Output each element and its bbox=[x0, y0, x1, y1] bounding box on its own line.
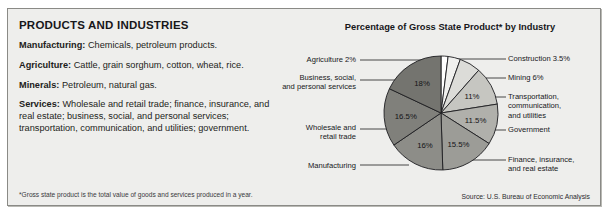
callout-mining: Mining 6% bbox=[508, 73, 543, 82]
left-text-column: PRODUCTS AND INDUSTRIES Manufacturing: C… bbox=[19, 19, 277, 143]
products-and-industries-figure: PRODUCTS AND INDUSTRIES Manufacturing: C… bbox=[7, 8, 601, 206]
pie-value-label: 16% bbox=[417, 141, 433, 150]
entry-text-agriculture: Cattle, grain sorghum, cotton, wheat, ri… bbox=[71, 60, 244, 70]
callout-manufacturing: Manufacturing bbox=[308, 161, 356, 170]
entry-term-manufacturing: Manufacturing: bbox=[19, 40, 85, 50]
entry-services: Services: Wholesale and retail trade; fi… bbox=[19, 99, 277, 134]
entry-minerals: Minerals: Petroleum, natural gas. bbox=[19, 80, 277, 92]
source-credit: Source: U.S. Bureau of Economic Analysis bbox=[462, 193, 590, 200]
entry-term-minerals: Minerals: bbox=[19, 80, 59, 90]
callout-finance: Finance, insurance, and real estate bbox=[508, 155, 574, 174]
footnote: *Gross state product is the total value … bbox=[19, 191, 349, 199]
chart-title: Percentage of Gross State Product* by In… bbox=[300, 22, 600, 32]
entry-manufacturing: Manufacturing: Chemicals, petroleum prod… bbox=[19, 40, 277, 52]
callout-wholesale: Wholesale and retail trade bbox=[306, 123, 356, 142]
callout-agriculture: Agriculture 2% bbox=[307, 55, 356, 64]
callout-transportation: Transportation, communication, and utili… bbox=[508, 92, 561, 120]
pie-value-label: 18% bbox=[414, 79, 430, 88]
callout-government: Government bbox=[508, 125, 550, 134]
page-title: PRODUCTS AND INDUSTRIES bbox=[19, 19, 277, 31]
pie-value-label: 15.5% bbox=[447, 140, 469, 149]
callout-business: Business, social, and personal services bbox=[282, 73, 356, 92]
entry-text-manufacturing: Chemicals, petroleum products. bbox=[85, 40, 217, 50]
callout-construction: Construction 3.5% bbox=[508, 54, 570, 63]
pie-value-label: 11.5% bbox=[465, 116, 487, 125]
entry-text-minerals: Petroleum, natural gas. bbox=[59, 80, 157, 90]
entry-term-agriculture: Agriculture: bbox=[19, 60, 71, 70]
entry-agriculture: Agriculture: Cattle, grain sorghum, cott… bbox=[19, 60, 277, 72]
pie-chart: 11%11.5%15.5%16%16.5%18% Agriculture 2% … bbox=[278, 37, 600, 189]
pie-value-label: 11% bbox=[464, 92, 479, 101]
pie-value-label: 16.5% bbox=[395, 112, 417, 121]
entry-term-services: Services: bbox=[19, 99, 60, 109]
